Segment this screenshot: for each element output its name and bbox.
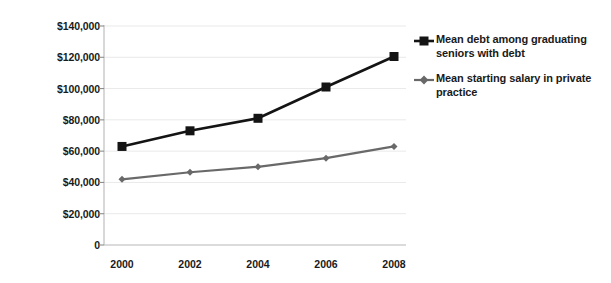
series-line-0 [122,57,394,147]
data-point-marker [390,52,399,61]
diamond-line-marker-icon [414,73,434,87]
data-point-marker [322,83,331,92]
x-axis-tick-label: 2006 [296,259,356,270]
chart-legend: Mean debt among graduating seniors with … [414,33,610,112]
data-point-marker [119,176,126,183]
data-point-marker [391,143,398,150]
legend-item-mean-salary[interactable]: Mean starting salary in private practice [414,72,610,99]
legend-label-mean-debt: Mean debt among graduating seniors with … [436,33,610,60]
x-axis-tick-label: 2008 [364,259,424,270]
data-point-marker [254,114,263,123]
data-point-marker [186,126,195,135]
legend-item-mean-debt[interactable]: Mean debt among graduating seniors with … [414,33,610,60]
legend-label-mean-salary: Mean starting salary in private practice [436,72,610,99]
data-point-marker [255,163,262,170]
square-line-marker-icon [414,34,434,48]
line-chart: 0$20,000$40,000$60,000$80,000$100,000$12… [0,0,611,283]
x-axis-tick-label: 2004 [228,259,288,270]
x-axis-tick-label: 2000 [92,259,152,270]
data-point-marker [323,155,330,162]
data-point-marker [187,169,194,176]
x-axis-tick-label: 2002 [160,259,220,270]
data-point-marker [118,142,127,151]
